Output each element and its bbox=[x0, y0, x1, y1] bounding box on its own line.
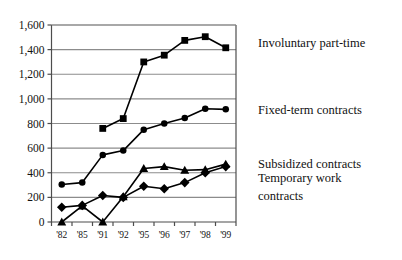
y-tick-label: 1,400 bbox=[19, 44, 45, 57]
y-tick-label: 400 bbox=[27, 167, 45, 179]
data-point-square bbox=[120, 115, 127, 122]
data-point-circle bbox=[181, 115, 188, 122]
chart-figure: 02004006008001,0001,2001,4001,600 '82'85… bbox=[0, 0, 402, 260]
legend-label: Involuntary part-time bbox=[258, 36, 366, 50]
legend-label: contracts bbox=[258, 189, 303, 203]
y-tick-label: 1,200 bbox=[19, 68, 45, 81]
x-tick-label: '95 bbox=[138, 230, 149, 240]
data-point-circle bbox=[79, 179, 86, 186]
data-point-circle bbox=[140, 126, 147, 133]
data-point-circle bbox=[120, 147, 127, 154]
data-point-square bbox=[222, 44, 229, 51]
legend-label: Subsidized contracts bbox=[258, 157, 361, 171]
x-tick-label: '91 bbox=[97, 230, 108, 240]
y-tick-label: 1,000 bbox=[19, 93, 45, 106]
data-point-circle bbox=[161, 120, 168, 127]
legend-label: Fixed-term contracts bbox=[258, 103, 362, 117]
data-point-square bbox=[181, 37, 188, 44]
y-tick-label: 0 bbox=[39, 216, 45, 228]
data-point-circle bbox=[99, 152, 106, 159]
x-axis-tick-labels: '82'85'91'92'95'96'97'98'99 bbox=[56, 230, 231, 240]
data-point-circle bbox=[202, 105, 209, 112]
y-tick-label: 200 bbox=[27, 191, 45, 203]
data-point-square bbox=[99, 125, 106, 132]
data-point-square bbox=[140, 59, 147, 66]
x-tick-label: '82 bbox=[56, 230, 67, 240]
y-tick-label: 800 bbox=[27, 118, 45, 130]
y-tick-label: 1,600 bbox=[19, 19, 45, 32]
data-point-circle bbox=[222, 106, 229, 113]
x-tick-label: '96 bbox=[159, 230, 170, 240]
data-point-circle bbox=[58, 181, 65, 188]
x-tick-label: '92 bbox=[118, 230, 129, 240]
legend-label: Temporary work bbox=[258, 171, 342, 185]
x-tick-label: '97 bbox=[179, 230, 190, 240]
x-tick-label: '98 bbox=[200, 230, 211, 240]
line-chart: 02004006008001,0001,2001,4001,600 '82'85… bbox=[0, 0, 402, 260]
data-point-square bbox=[161, 52, 168, 59]
x-tick-label: '99 bbox=[220, 230, 231, 240]
data-point-square bbox=[202, 33, 209, 40]
y-tick-label: 600 bbox=[27, 142, 45, 154]
x-tick-label: '85 bbox=[77, 230, 88, 240]
